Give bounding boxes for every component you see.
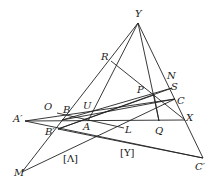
label-upsilon: [Υ] (120, 148, 134, 158)
label-a-prime: A′ (13, 114, 23, 124)
label-o: O (44, 102, 52, 112)
label-m: M (14, 168, 24, 178)
label-y: Y (135, 9, 142, 19)
label-lambda: [Λ] (63, 154, 78, 164)
label-c-prime: C′ (195, 162, 205, 172)
label-l: L (125, 125, 132, 135)
diagram-lines (0, 0, 218, 186)
label-r: R (101, 52, 109, 62)
label-q: Q (155, 126, 163, 136)
label-b: B (63, 105, 70, 115)
label-a: A (83, 122, 90, 132)
geometry-diagram: Y R N S C P X Q O B U A A′ B′ L M C′ [Λ]… (0, 0, 218, 186)
label-c: C (177, 96, 185, 106)
label-s: S (171, 82, 178, 92)
label-n: N (167, 71, 176, 81)
label-b-prime: B′ (45, 127, 55, 137)
label-p: P (137, 85, 144, 95)
label-u: U (83, 101, 91, 111)
label-x: X (186, 113, 193, 123)
